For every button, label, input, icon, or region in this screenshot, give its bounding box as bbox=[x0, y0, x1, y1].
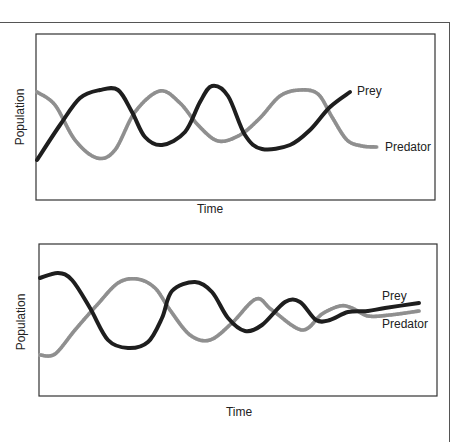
x-axis-label: Time bbox=[226, 405, 253, 419]
prey-label: Prey bbox=[357, 84, 382, 98]
predator-label: Predator bbox=[385, 140, 431, 154]
predator-line-underlay bbox=[37, 90, 377, 159]
plot-area bbox=[39, 244, 437, 396]
y-axis-label: Population bbox=[13, 89, 27, 146]
x-axis-label: Time bbox=[197, 202, 224, 216]
y-axis-label: Population bbox=[14, 294, 28, 351]
chart-damped-oscillation: Prey Predator Time Population bbox=[14, 244, 437, 419]
predator-label: Predator bbox=[382, 317, 428, 331]
prey-line bbox=[40, 273, 419, 348]
chart-constant-oscillation: Prey Predator Time Population bbox=[13, 34, 435, 216]
prey-label: Prey bbox=[382, 289, 407, 303]
predator-line bbox=[37, 90, 377, 159]
